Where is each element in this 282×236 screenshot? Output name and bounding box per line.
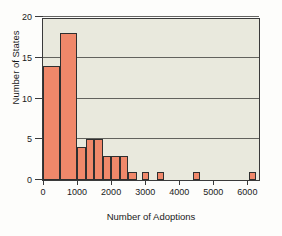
- plot-area: 05101520 0100020003000400050006000: [42, 18, 260, 181]
- histogram-bar: [86, 139, 95, 180]
- histogram-bar: [60, 33, 77, 180]
- y-tick-mark: [35, 57, 43, 58]
- histogram-bar: [103, 156, 112, 180]
- y-tick-label: 20: [22, 12, 32, 22]
- x-tick-mark: [77, 180, 78, 185]
- x-tick-label: 2000: [101, 187, 121, 197]
- histogram-bar: [43, 66, 60, 180]
- x-tick-mark: [247, 180, 248, 185]
- histogram-bar: [77, 147, 86, 180]
- y-axis-title: Number of States: [10, 8, 21, 128]
- x-tick-mark: [43, 180, 44, 185]
- x-tick-label: 0: [40, 187, 45, 197]
- x-tick-mark: [179, 180, 180, 185]
- x-tick-label: 1000: [67, 187, 87, 197]
- histogram-bar: [128, 172, 137, 180]
- y-tick-label: 0: [27, 175, 32, 185]
- y-tick-mark: [35, 98, 43, 99]
- x-axis-title: Number of Adoptions: [42, 211, 260, 222]
- x-tick-label: 3000: [135, 187, 155, 197]
- bar-series: [43, 19, 259, 180]
- x-tick-mark: [145, 180, 146, 185]
- y-tick-mark: [35, 16, 43, 17]
- x-tick-label: 6000: [237, 187, 257, 197]
- gridline-y-20: [43, 16, 259, 17]
- histogram-bar: [142, 172, 149, 180]
- histogram-bar: [157, 172, 164, 180]
- x-tick-label: 5000: [203, 187, 223, 197]
- histogram-bar: [111, 156, 120, 180]
- y-tick-mark: [35, 138, 43, 139]
- histogram-bar: [120, 156, 129, 180]
- x-tick-mark: [111, 180, 112, 185]
- histogram-bar: [94, 139, 103, 180]
- y-tick-label: 15: [22, 53, 32, 63]
- x-tick-label: 4000: [169, 187, 189, 197]
- y-tick-label: 10: [22, 94, 32, 104]
- histogram-figure: 05101520 0100020003000400050006000 Numbe…: [0, 0, 282, 236]
- histogram-bar: [249, 172, 256, 180]
- y-tick-label: 5: [27, 134, 32, 144]
- x-tick-mark: [213, 180, 214, 185]
- y-tick-mark: [35, 179, 43, 180]
- histogram-bar: [193, 172, 200, 180]
